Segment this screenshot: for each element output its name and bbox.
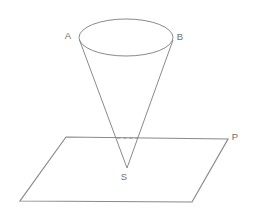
label-a: A: [65, 30, 72, 41]
plane-polygon: [20, 137, 228, 202]
label-s: S: [121, 171, 127, 182]
cone-plane-figure: A B S P: [0, 0, 259, 224]
label-p: P: [232, 131, 238, 142]
cone-right-slant-line: [127, 40, 173, 168]
cone-left-slant-line: [80, 40, 128, 168]
cone-top-rim-ellipse: [79, 19, 173, 56]
diagram-canvas: A B S P: [0, 0, 259, 224]
label-b: B: [177, 31, 183, 42]
